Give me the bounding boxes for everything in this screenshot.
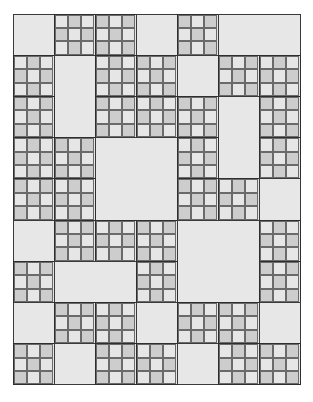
- sub-square: [96, 247, 109, 260]
- sub-square: [245, 69, 258, 82]
- sub-square: [150, 358, 163, 371]
- sub-square: [68, 193, 81, 206]
- sub-square: [14, 110, 27, 123]
- sub-square: [109, 83, 122, 96]
- sub-square: [14, 97, 27, 110]
- sub-square: [55, 138, 68, 151]
- sub-square: [273, 262, 286, 275]
- sub-square: [14, 152, 27, 165]
- sub-square: [178, 152, 191, 165]
- sub-square: [14, 193, 27, 206]
- sub-square: [27, 69, 40, 82]
- sub-square: [286, 275, 299, 288]
- sub-square: [55, 28, 68, 41]
- sub-square: [27, 262, 40, 275]
- sub-square: [191, 110, 204, 123]
- sub-square: [286, 262, 299, 275]
- sub-square: [109, 28, 122, 41]
- sub-square: [260, 358, 273, 371]
- sub-square: [204, 138, 217, 151]
- sub-square: [163, 234, 176, 247]
- sub-square: [178, 15, 191, 28]
- sub-square: [27, 56, 40, 69]
- sub-square: [219, 206, 232, 219]
- sub-square: [204, 179, 217, 192]
- sub-square: [260, 234, 273, 247]
- checker-block: [13, 343, 55, 385]
- sub-square: [191, 138, 204, 151]
- sub-square: [178, 330, 191, 343]
- sub-square: [14, 124, 27, 137]
- sub-square: [81, 193, 94, 206]
- sub-square: [245, 358, 258, 371]
- sub-square: [96, 15, 109, 28]
- checker-block: [54, 137, 96, 179]
- sub-square: [40, 344, 53, 357]
- sub-square: [204, 193, 217, 206]
- sub-square: [219, 330, 232, 343]
- sub-square: [122, 83, 135, 96]
- sub-square: [55, 41, 68, 54]
- sub-square: [260, 138, 273, 151]
- sub-square: [286, 56, 299, 69]
- sub-square: [137, 83, 150, 96]
- sub-square: [245, 371, 258, 384]
- sub-square: [204, 41, 217, 54]
- sub-square: [109, 15, 122, 28]
- sub-square: [191, 206, 204, 219]
- sub-square: [55, 165, 68, 178]
- sub-square: [232, 179, 245, 192]
- sub-square: [273, 344, 286, 357]
- sub-square: [40, 83, 53, 96]
- checker-block: [259, 261, 301, 303]
- sub-square: [286, 358, 299, 371]
- plain-block: [218, 96, 260, 179]
- sub-square: [96, 330, 109, 343]
- sub-square: [163, 275, 176, 288]
- sub-square: [286, 124, 299, 137]
- sub-square: [27, 275, 40, 288]
- checker-block: [95, 220, 137, 262]
- sub-square: [40, 110, 53, 123]
- sub-square: [273, 152, 286, 165]
- sub-square: [163, 69, 176, 82]
- plain-block: [54, 343, 96, 385]
- sub-square: [260, 152, 273, 165]
- sub-square: [55, 15, 68, 28]
- sub-square: [55, 193, 68, 206]
- sub-square: [273, 69, 286, 82]
- sub-square: [137, 358, 150, 371]
- plain-block: [54, 261, 137, 303]
- sub-square: [286, 221, 299, 234]
- sub-square: [286, 83, 299, 96]
- sub-square: [109, 234, 122, 247]
- checker-block: [136, 96, 178, 138]
- sub-square: [178, 124, 191, 137]
- sub-square: [191, 165, 204, 178]
- sub-square: [96, 303, 109, 316]
- sub-square: [137, 262, 150, 275]
- sub-square: [150, 56, 163, 69]
- sub-square: [286, 69, 299, 82]
- sub-square: [219, 83, 232, 96]
- sub-square: [219, 371, 232, 384]
- sub-square: [137, 234, 150, 247]
- sub-square: [55, 330, 68, 343]
- sub-square: [27, 289, 40, 302]
- sub-square: [260, 289, 273, 302]
- sub-square: [163, 97, 176, 110]
- sub-square: [109, 110, 122, 123]
- sub-square: [27, 124, 40, 137]
- sub-square: [96, 97, 109, 110]
- checker-block: [95, 343, 137, 385]
- sub-square: [14, 83, 27, 96]
- sub-square: [232, 344, 245, 357]
- checker-block: [259, 343, 301, 385]
- sub-square: [245, 316, 258, 329]
- checker-block: [218, 343, 260, 385]
- sub-square: [40, 358, 53, 371]
- sub-square: [204, 165, 217, 178]
- sub-square: [122, 247, 135, 260]
- checker-block: [259, 96, 301, 138]
- sub-square: [96, 69, 109, 82]
